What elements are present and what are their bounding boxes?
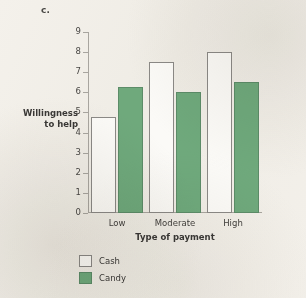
y-axis-title-line-2: to help (8, 119, 78, 130)
legend-item-cash: Cash (79, 252, 126, 269)
legend-item-candy: Candy (79, 269, 126, 286)
bar-cash-high (207, 52, 232, 213)
x-category-label-low: Low (109, 218, 126, 228)
bar-candy-moderate (176, 92, 201, 213)
y-axis-title: Willingness to help (8, 108, 78, 130)
y-tick-label: 9 (76, 26, 81, 36)
bar-candy-low (118, 87, 143, 213)
y-axis-title-line-1: Willingness (8, 108, 78, 119)
bar-cash-low (91, 117, 116, 213)
y-tick-label: 6 (76, 86, 81, 96)
bar-candy-high (234, 82, 259, 213)
legend-label-candy: Candy (99, 273, 126, 283)
legend-label-cash: Cash (99, 256, 120, 266)
legend-swatch-cash-icon (79, 255, 92, 267)
y-tick-label: 3 (76, 147, 81, 157)
chart-legend: CashCandy (79, 252, 126, 286)
figure-panel: c. Willingness to help 0123456789 LowMod… (0, 0, 306, 298)
x-category-label-moderate: Moderate (155, 218, 195, 228)
y-tick-label: 7 (76, 66, 81, 76)
y-tick-mark (83, 213, 88, 214)
legend-swatch-candy-icon (79, 272, 92, 284)
y-tick-label: 5 (76, 106, 81, 116)
plot-area: 0123456789 LowModerateHigh (88, 32, 262, 213)
panel-letter-label: c. (41, 5, 50, 15)
bar-cash-moderate (149, 62, 174, 213)
y-tick-label: 1 (76, 187, 81, 197)
y-tick-label: 8 (76, 46, 81, 56)
x-category-label-high: High (223, 218, 243, 228)
y-tick-label: 4 (76, 127, 81, 137)
y-tick-label: 2 (76, 167, 81, 177)
x-axis-title: Type of payment (88, 232, 262, 242)
y-tick-label: 0 (76, 207, 81, 217)
bar-group-container (88, 32, 262, 213)
